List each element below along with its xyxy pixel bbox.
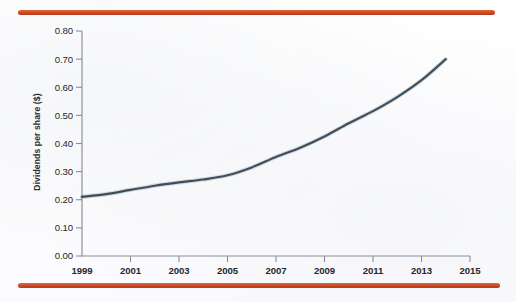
y-axis-tick-label: 0.80 (55, 25, 73, 36)
y-axis-tick-label: 0.20 (55, 194, 73, 205)
dividends-per-share-line-chart: Dividends per share ($) 0.000.100.200.30… (0, 0, 516, 302)
dividends-series-line (82, 59, 446, 197)
y-axis-tick-label: 0.60 (55, 82, 73, 93)
y-axis-tick-label: 0.40 (55, 138, 73, 149)
x-axis-tick-label: 2013 (411, 265, 432, 276)
axis-frame-lines (82, 31, 470, 256)
x-axis-tick-label: 2007 (266, 265, 287, 276)
y-axis-tick-label: 0.00 (55, 250, 73, 261)
y-axis-title: Dividends per share ($) (32, 93, 42, 190)
y-axis-tick-label: 0.30 (55, 166, 73, 177)
x-axis-tick-label: 1999 (72, 265, 93, 276)
y-axis-tick-label: 0.50 (55, 110, 73, 121)
y-axis-tick-group: 0.000.100.200.300.400.500.600.700.80 (55, 25, 82, 261)
x-axis-tick-label: 2005 (217, 265, 239, 276)
scanned-chart-page: Dividends per share ($) 0.000.100.200.30… (0, 0, 516, 302)
dividends-series-shadow (82, 59, 446, 197)
y-axis-tick-label: 0.10 (55, 222, 73, 233)
x-axis-tick-label: 2009 (314, 265, 335, 276)
x-axis-tick-label: 2001 (120, 265, 142, 276)
y-axis-title-text: Dividends per share ($) (32, 93, 42, 190)
x-axis-tick-label: 2011 (363, 265, 384, 276)
x-axis-tick-group: 199920012003200520072009201120132015 (72, 256, 482, 276)
x-axis-tick-label: 2015 (460, 265, 482, 276)
y-axis-tick-label: 0.70 (55, 54, 73, 65)
x-axis-tick-label: 2003 (169, 265, 190, 276)
